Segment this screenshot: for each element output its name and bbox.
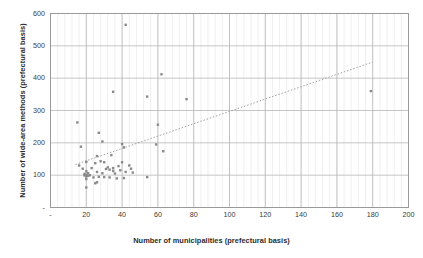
x-tick-label: 60 [143,210,173,219]
data-point [121,143,123,145]
data-point [114,172,116,174]
data-point [94,162,96,164]
x-tick-label: 40 [107,210,137,219]
data-point [85,178,87,180]
x-tick-label: 140 [286,210,316,219]
data-point [107,166,109,168]
data-point [112,167,114,169]
data-point [96,181,98,183]
x-tick-label: 200 [394,210,423,219]
data-point [116,177,118,179]
data-point [82,168,84,170]
data-point [370,90,372,92]
data-point [155,143,157,145]
x-tick-label: 20 [71,210,101,219]
data-point [76,121,78,123]
x-tick-label: 100 [215,210,245,219]
data-point [130,168,132,170]
data-point [124,24,126,26]
data-point [157,124,159,126]
data-point [96,171,98,173]
data-point [90,167,92,169]
data-point [121,161,123,163]
data-point [99,160,101,162]
data-point [89,174,91,176]
data-point [119,169,121,171]
y-axis-title: Number of wide-area methods (prefectural… [18,1,27,221]
major-gridlines [51,14,409,208]
data-point [98,132,100,134]
data-point [128,164,130,166]
data-point [132,171,134,173]
data-point [103,161,105,163]
trend-line [76,62,373,164]
data-point [162,150,164,152]
data-point [101,172,103,174]
data-point [85,161,87,163]
data-point [108,176,110,178]
x-tick-label: 120 [250,210,280,219]
data-point [117,165,119,167]
data-point [160,73,162,75]
data-point [101,140,103,142]
data-point [146,176,148,178]
x-axis-title: Number of municipalities (prefectural ba… [0,236,423,245]
data-point [98,176,100,178]
data-point [92,176,94,178]
data-point [85,186,87,188]
data-point [112,170,114,172]
x-tick-label: 160 [322,210,352,219]
data-point [96,155,98,157]
data-points [76,24,372,189]
plot-canvas [0,0,423,258]
data-point [110,154,112,156]
x-tick-label: 80 [179,210,209,219]
scatter-chart: -20406080100120140160180200 -10020030040… [0,0,423,258]
data-point [185,98,187,100]
data-point [123,177,125,179]
data-point [103,176,105,178]
data-point [80,146,82,148]
data-point [124,171,126,173]
data-point [108,168,110,170]
data-point [146,95,148,97]
data-point [112,91,114,93]
x-tick-label: 180 [358,210,388,219]
data-point [78,164,80,166]
data-point [123,146,125,148]
